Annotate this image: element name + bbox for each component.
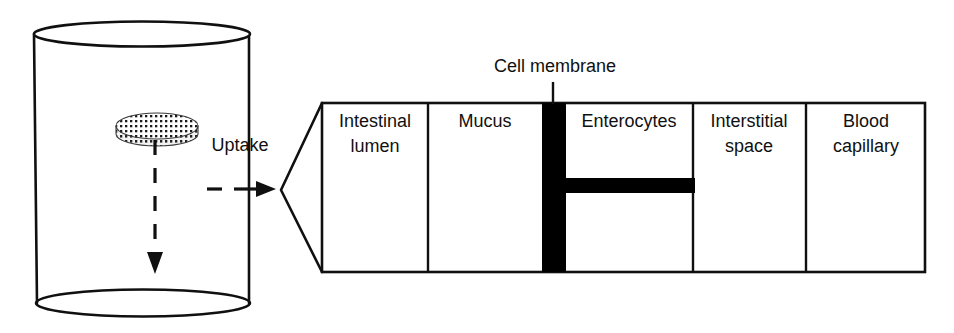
absorption-schematic: Uptake Cell membrane Intestinal lumen Mu… [0,0,954,333]
label-intestinal-lumen-line2: lumen [350,136,399,156]
dosage-form-tablet-disc [116,113,198,146]
uptake-label: Uptake [211,135,268,155]
label-interstitial-space-line2: space [725,136,773,156]
dissolution-arrow-head [147,252,163,274]
figure-canvas: Uptake Cell membrane Intestinal lumen Mu… [0,0,954,333]
uptake-dashed-right-arrow [207,181,276,197]
magnification-funnel [281,103,322,272]
tablet-top-face [116,113,198,139]
label-blood-capillary-line1: Blood [843,111,889,131]
cell-membrane-horizontal-bar [565,178,695,193]
cell-membrane-vertical-bar [542,103,566,272]
label-intestinal-lumen-line1: Intestinal [339,111,411,131]
dissolution-dashed-down-arrow [147,140,163,274]
label-interstitial-space-line1: Interstitial [710,111,787,131]
vessel-top-ellipse [34,22,250,47]
dissolution-vessel-cylinder [34,22,250,317]
label-mucus-line1: Mucus [458,111,511,131]
vessel-left-wall [34,34,37,303]
label-enterocytes-line1: Enterocytes [581,111,676,131]
uptake-arrow-head [256,181,276,197]
cell-membrane-label: Cell membrane [494,56,616,76]
label-blood-capillary-line2: capillary [833,136,899,156]
vessel-bottom-ellipse [36,290,250,317]
funnel-outline [281,103,322,272]
